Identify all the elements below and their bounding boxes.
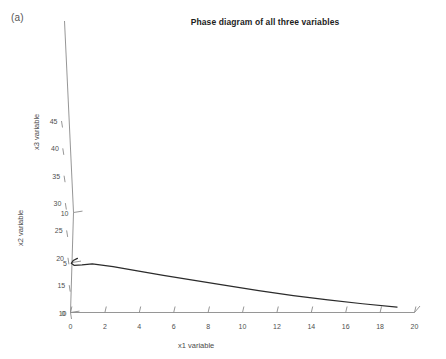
tick-label: 0 — [69, 323, 73, 330]
tick-label: 5 — [63, 260, 67, 267]
tick-label: 14 — [307, 323, 315, 330]
tick-label: 0 — [62, 310, 66, 317]
tick-label: 40 — [51, 145, 59, 152]
tick-label: 2 — [103, 323, 107, 330]
tick-label: 6 — [172, 323, 176, 330]
phase-diagram-figure: (a) Phase diagram of all three variables… — [0, 0, 446, 359]
plot-canvas: 1015202530354045 0510 02468101214161820 — [0, 0, 446, 359]
x1-axis-title: x1 variable — [178, 341, 214, 350]
x3-tick-group: 1015202530354045 — [50, 118, 72, 319]
tick-label: 12 — [273, 323, 281, 330]
tick-label: 30 — [54, 200, 62, 207]
tick-label: 4 — [137, 323, 141, 330]
tick-label: 45 — [50, 118, 58, 125]
tick-label: 20 — [411, 323, 419, 330]
x1-axis — [71, 306, 421, 313]
tick-label: 35 — [52, 173, 60, 180]
tick-label: 15 — [57, 282, 65, 289]
x3-axis-title: x3 variable — [32, 114, 41, 150]
tick-label: 10 — [239, 323, 247, 330]
trajectory-group — [71, 258, 397, 307]
tick-label: 18 — [376, 323, 384, 330]
trajectory-line — [71, 258, 397, 307]
tick-label: 16 — [342, 323, 350, 330]
tick-label: 8 — [206, 323, 210, 330]
tick-label: 10 — [61, 210, 69, 217]
tick-label: 25 — [55, 227, 63, 234]
x3-axis — [65, 21, 74, 213]
x1-tick-group: 02468101214161820 — [69, 307, 419, 330]
x2-axis-title: x2 variable — [16, 210, 25, 246]
